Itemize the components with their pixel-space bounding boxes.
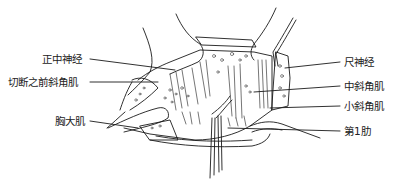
right-tissue-block — [272, 52, 290, 110]
label-ulnar-nerve: 尺神经 — [344, 56, 374, 68]
label-pectoralis-major: 胸大肌 — [55, 115, 85, 127]
label-first-rib: 第1肋 — [344, 125, 371, 137]
leader-scalenus-minimus — [270, 106, 340, 108]
leader-first-rib — [228, 128, 340, 131]
label-scalenus-minimus: 小斜角肌 — [344, 100, 384, 112]
label-middle-scalene: 中斜角肌 — [344, 80, 384, 92]
anatomy-drawing — [0, 0, 400, 190]
muscle-fibers — [170, 60, 268, 126]
central-instrument — [210, 118, 212, 178]
leader-ulnar-nerve — [285, 62, 340, 68]
central-flap — [170, 14, 203, 74]
left-skin-flap — [128, 28, 152, 95]
leader-median-nerve — [90, 59, 175, 70]
label-cut-anterior-scalene: 切断之前斜角肌 — [8, 76, 78, 88]
tissue-texture — [135, 52, 285, 129]
label-median-nerve: 正中神经 — [42, 53, 82, 65]
